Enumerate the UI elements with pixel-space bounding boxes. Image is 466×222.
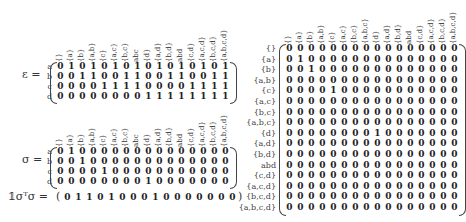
matrix-cell: 0 (438, 160, 449, 170)
matrix-cell: 0 (77, 81, 88, 91)
matrix-cell: 0 (121, 146, 132, 156)
matrix-cell: 0 (383, 43, 394, 53)
matrix-cell: 0 (88, 146, 99, 156)
matrix-cell: 0 (438, 149, 449, 159)
matrix-cell: 0 (77, 61, 88, 71)
matrix-cell: 0 (132, 91, 143, 101)
matrix-cell: 0 (438, 85, 449, 95)
column-header: {a,b} (88, 42, 96, 62)
matrix-cell: 0 (154, 146, 165, 156)
matrix-cell: 0 (405, 149, 416, 159)
matrix-cell: 0 (165, 81, 176, 91)
column-header: {b,c} (121, 127, 129, 147)
matrix-cell: 1 (209, 91, 220, 101)
matrix-cell: 0 (88, 91, 99, 101)
column-header: {a,d} (154, 127, 162, 147)
vector-cell: 0 (139, 192, 150, 202)
matrix-cell: 0 (295, 181, 306, 191)
matrix-cell: 0 (99, 61, 110, 71)
matrix-cell: 0 (295, 160, 306, 170)
matrix-cell: 0 (77, 146, 88, 156)
matrix-cell: 0 (416, 191, 427, 201)
column-header: {a,b,c,d} (220, 29, 228, 62)
matrix-cell: 0 (405, 96, 416, 106)
matrix-cell: 0 (394, 43, 405, 53)
matrix-cell: 0 (198, 71, 209, 81)
matrix-cell: 0 (372, 117, 383, 127)
matrix-cell: 0 (339, 160, 350, 170)
vector-cell: 1 (106, 192, 117, 202)
matrix-cell: 0 (143, 61, 154, 71)
matrix-cell: 0 (383, 191, 394, 201)
matrix-cell: 0 (438, 128, 449, 138)
row-label: {a,c,d} (232, 182, 276, 191)
matrix-cell: 1 (77, 71, 88, 81)
matrix-cell: 1 (77, 156, 88, 166)
row-label: {a,b,c} (232, 118, 276, 127)
matrix-cell: 0 (361, 191, 372, 201)
matrix-cell: 0 (416, 64, 427, 74)
matrix-cell: 0 (295, 138, 306, 148)
matrix-cell: 1 (176, 91, 187, 101)
matrix-cell: 0 (66, 91, 77, 101)
matrix-cell: 1 (132, 81, 143, 91)
matrix-cell: 0 (99, 176, 110, 186)
matrix-cell: 0 (427, 96, 438, 106)
matrix-cell: 1 (295, 54, 306, 64)
matrix-cell: 0 (350, 191, 361, 201)
column-header: {b} (306, 31, 314, 44)
matrix-cell: 0 (405, 138, 416, 148)
matrix-cell: 0 (306, 160, 317, 170)
matrix-cell: 0 (121, 156, 132, 166)
left-paren (50, 147, 57, 189)
matrix-cell: 0 (328, 181, 339, 191)
matrix-cell: 0 (306, 138, 317, 148)
matrix-cell: 0 (350, 138, 361, 148)
matrix-cell: 0 (383, 138, 394, 148)
matrix-cell: 0 (427, 75, 438, 85)
matrix-cell: 1 (154, 61, 165, 71)
matrix-cell: 0 (427, 64, 438, 74)
matrix-cell: 0 (328, 170, 339, 180)
matrix-cell: 0 (66, 81, 77, 91)
matrix-cell: 0 (427, 138, 438, 148)
matrix-cell: 0 (328, 117, 339, 127)
matrix-cell: 0 (88, 156, 99, 166)
matrix-cell: 0 (209, 166, 220, 176)
matrix-cell: 0 (295, 96, 306, 106)
matrix-cell: 0 (99, 91, 110, 101)
matrix-cell: 0 (405, 170, 416, 180)
matrix-cell: 0 (143, 71, 154, 81)
matrix-cell: 0 (372, 160, 383, 170)
matrix-cell: 1 (187, 81, 198, 91)
matrix-cell: 0 (317, 202, 328, 212)
row-label: {} (232, 44, 276, 53)
matrix-cell: 0 (121, 61, 132, 71)
matrix-cell: 0 (427, 117, 438, 127)
matrix-cell: 0 (306, 170, 317, 180)
vector-cell: 0 (172, 192, 183, 202)
matrix-cell: 0 (361, 128, 372, 138)
matrix-cell: 0 (198, 176, 209, 186)
column-header: {b,c,d} (438, 18, 446, 44)
matrix-cell: 0 (350, 117, 361, 127)
matrix-cell: 0 (372, 64, 383, 74)
matrix-cell: 0 (350, 54, 361, 64)
row-label: {a,d} (232, 139, 276, 148)
matrix-cell: 0 (328, 138, 339, 148)
matrix-cell: 0 (176, 146, 187, 156)
matrix-cell: 0 (427, 181, 438, 191)
matrix-cell: 0 (394, 160, 405, 170)
matrix-cell: 1 (121, 71, 132, 81)
matrix-cell: 0 (361, 107, 372, 117)
matrix-cell: 0 (361, 181, 372, 191)
matrix-cell: 0 (405, 128, 416, 138)
row-label: abd (232, 161, 276, 170)
matrix-cell: 0 (394, 170, 405, 180)
matrix-cell: 0 (383, 181, 394, 191)
matrix-cell: 0 (306, 107, 317, 117)
matrix-cell: 0 (77, 166, 88, 176)
matrix-cell: 0 (438, 191, 449, 201)
matrix-cell: 0 (416, 85, 427, 95)
matrix-cell: 0 (350, 160, 361, 170)
